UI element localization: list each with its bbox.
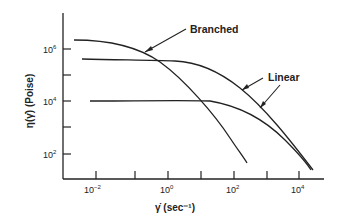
x-tick-label-1e0: 100 xyxy=(160,184,174,195)
y-tick-label-1e2: 102 xyxy=(43,149,57,160)
annotation-branched: Branched xyxy=(190,23,238,35)
branched-arrowhead-icon xyxy=(145,46,153,52)
viscosity-chart: 106 104 102 10−2 100 102 104 γ̇ (sec⁻¹) … xyxy=(0,0,341,219)
x-ticks xyxy=(96,171,299,179)
y-ticks xyxy=(63,49,71,154)
x-axis-label: γ̇ (sec⁻¹) xyxy=(155,202,195,213)
y-axis-label: η(γ̇) (Poise) xyxy=(24,74,35,128)
x-tick-label-1e-2: 10−2 xyxy=(84,184,102,195)
x-tick-label-1e4: 104 xyxy=(291,184,305,195)
y-tick-label-1e6: 106 xyxy=(43,44,57,55)
linear-low-curve xyxy=(90,101,311,170)
annotation-linear: Linear xyxy=(268,71,300,83)
x-tick-label-1e2: 102 xyxy=(226,184,240,195)
y-tick-label-1e4: 104 xyxy=(43,96,57,107)
linear-arrowhead-1-icon xyxy=(242,84,249,90)
